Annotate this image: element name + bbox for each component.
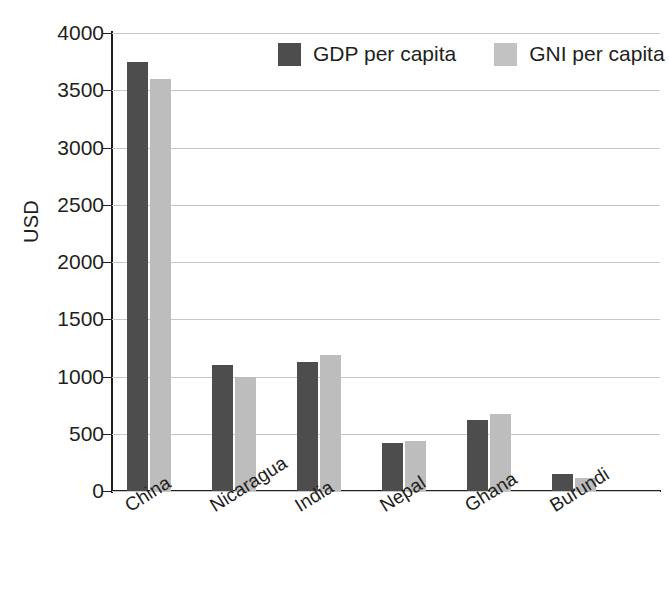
bars-layer	[112, 33, 660, 491]
y-axis-tick-label: 2000	[26, 251, 104, 272]
bar-nicaragua-gdp	[212, 365, 233, 491]
y-axis-tick-label: 500	[26, 423, 104, 444]
bar-india-gdp	[297, 362, 318, 491]
bar-china-gdp	[127, 62, 148, 491]
legend-label: GNI per capita	[529, 42, 664, 66]
y-axis-tick	[103, 377, 112, 378]
y-axis-tick-label: 1000	[26, 366, 104, 387]
bar-ghana-gdp	[467, 420, 488, 491]
y-axis-tick-label: 0	[26, 480, 104, 501]
chart-legend: GDP per capitaGNI per capita	[278, 42, 665, 66]
bar-india-gni	[320, 355, 341, 491]
y-axis-tick	[103, 319, 112, 320]
y-axis-tick-label: 1500	[26, 308, 104, 329]
legend-item-gni: GNI per capita	[494, 42, 664, 66]
y-axis-tick-label: 3000	[26, 137, 104, 158]
y-axis-tick	[103, 33, 112, 34]
y-axis-tick	[103, 262, 112, 263]
y-axis-tick-label: 4000	[26, 22, 104, 43]
bar-chart: USD ChinaNicaraguaIndiaNepalGhanaBurundi…	[0, 0, 669, 589]
y-axis-tick	[103, 491, 112, 492]
legend-swatch-icon	[278, 43, 301, 66]
bar-china-gni	[150, 79, 171, 491]
y-axis-tick	[103, 205, 112, 206]
y-axis-tick-label: 2500	[26, 194, 104, 215]
legend-item-gdp: GDP per capita	[278, 42, 456, 66]
legend-label: GDP per capita	[313, 42, 456, 66]
legend-swatch-icon	[494, 43, 517, 66]
y-axis-tick-label: 3500	[26, 79, 104, 100]
y-axis-tick	[103, 434, 112, 435]
y-axis-tick	[103, 90, 112, 91]
y-axis-tick	[103, 148, 112, 149]
